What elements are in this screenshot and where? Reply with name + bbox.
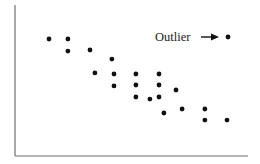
data-point: [203, 107, 208, 112]
outlier-point: [226, 35, 231, 40]
data-point: [162, 111, 167, 116]
data-point: [157, 72, 162, 77]
data-point: [66, 49, 71, 54]
data-point: [148, 97, 153, 102]
data-point: [112, 84, 117, 89]
data-point: [157, 83, 162, 88]
data-point: [88, 48, 93, 53]
data-point: [112, 72, 117, 77]
data-point: [225, 118, 230, 123]
data-point: [110, 57, 115, 62]
scatter-chart: Outlier: [0, 0, 260, 164]
data-point: [134, 95, 139, 100]
points-layer: [47, 35, 231, 123]
data-point: [157, 95, 162, 100]
outlier-label: Outlier: [155, 30, 191, 44]
data-point: [180, 107, 185, 112]
data-point: [203, 118, 208, 123]
data-point: [47, 37, 52, 42]
data-point: [66, 37, 71, 42]
data-point: [174, 88, 179, 93]
data-point: [93, 71, 98, 76]
outlier-arrowhead: [211, 34, 219, 41]
data-point: [134, 83, 139, 88]
data-point: [134, 72, 139, 77]
